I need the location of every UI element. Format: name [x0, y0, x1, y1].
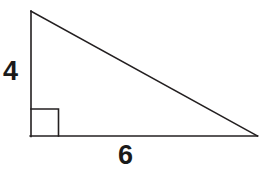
triangle-drawing	[0, 0, 273, 175]
horizontal-leg-label: 6	[118, 142, 133, 169]
hypotenuse-line	[31, 11, 258, 136]
triangle-outline	[30, 11, 257, 136]
right-triangle-figure: 4 6	[0, 0, 273, 175]
vertical-leg-label: 4	[3, 58, 18, 85]
right-angle-icon	[31, 109, 59, 136]
